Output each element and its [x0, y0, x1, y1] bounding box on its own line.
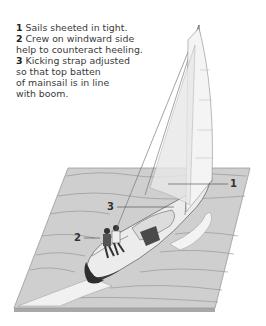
jib [150, 45, 195, 205]
callout-2: 2 [74, 232, 81, 243]
callout-3: 3 [107, 201, 114, 212]
callout-1: 1 [230, 178, 237, 189]
sailboat-illustration [0, 0, 266, 326]
